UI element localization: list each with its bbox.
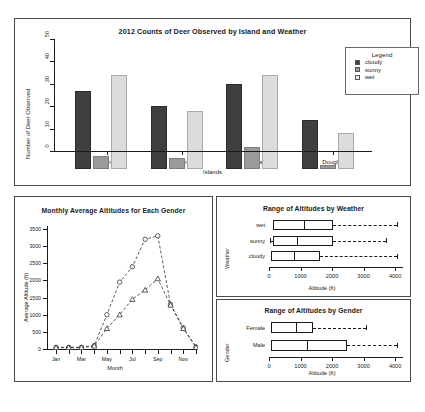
bar-y-tick-mark [50,61,54,62]
bar-y-tick-label: 20 [44,95,50,107]
bar-chichagof-sunny [244,147,260,169]
bar-plot-area [69,57,371,169]
boxplot-x-tick-mark [269,267,270,271]
boxplot-cap-high-cloudy [397,254,398,259]
boxplot-x-tick-mark [332,357,333,361]
legend-swatch-cloudy-icon [355,60,360,65]
legend-item-cloudy[interactable]: cloudy [355,59,418,65]
bar-y-tick-mark [50,129,54,130]
line-x-tick-mark [158,350,159,354]
line-x-tick-mark [132,350,133,354]
boxplot-median-male [307,340,308,351]
bar-baranof-cloudy [151,106,167,169]
line-point-male-aug [143,237,147,241]
boxplot-median-wet [304,220,305,230]
boxplot-whisker-high-sunny [333,241,386,242]
line-x-tick-label-jan: Jan [42,356,70,362]
line-y-tick-mark [43,246,47,247]
line-point-male-jul [130,265,134,269]
boxplot-x-tick-mark [301,357,302,361]
boxplot-median-female [296,322,297,333]
line-x-tick-mark [183,350,184,354]
boxplot-x-tick-label: 3000 [350,363,378,369]
legend-label-cloudy: cloudy [365,59,382,65]
line-y-tick-label: 0 [15,346,41,352]
boxplot-box-sunny [273,236,333,246]
line-point-female-jul [130,297,135,302]
line-y-tick-mark [43,298,47,299]
bar-y-tick-label: 0 [44,140,50,152]
boxplot-x-tick-label: 1000 [287,363,315,369]
boxplot-x-axis-line [269,267,403,268]
line-y-tick-mark [43,280,47,281]
boxplot-x-axis-line [269,357,403,358]
legend-item-sunny[interactable]: sunny [355,67,418,73]
weather-y-axis-title: Weather [224,248,230,269]
boxplot-x-tick-label: 2000 [318,273,346,279]
legend-swatch-sunny-icon [355,67,360,72]
boxplot-row-label-sunny: sunny [233,238,265,244]
bar-admiralty-wet [111,75,127,169]
line-y-tick-label: 1000 [15,312,41,318]
bar-baranof-wet [187,111,203,169]
line-chart-panel: Monthly Average Altitudes for Each Gende… [14,196,213,382]
bar-y-tick-label: 50 [44,28,50,40]
boxplot-whisker-high-female [313,328,367,329]
line-y-tick-mark [43,229,47,230]
bar-chart-panel: 2012 Counts of Deer Observed by Island a… [14,18,411,186]
legend-swatch-wet-icon [355,75,360,80]
boxplot-median-cloudy [294,251,295,261]
boxplot-cap-high-female [366,325,367,330]
boxplot-box-cloudy [271,251,320,261]
boxplot-x-tick-label: 4000 [381,273,409,279]
weather-chart-title: Range of Altitudes by Weather [217,205,410,212]
bar-baranof-sunny [169,158,185,169]
line-y-tick-label: 2500 [15,260,41,266]
bar-admiralty-sunny [93,156,109,169]
line-series-male [56,236,196,347]
line-x-tick-mark [171,350,172,354]
boxplot-box-wet [273,220,333,230]
bar-douglas-cloudy [302,120,318,169]
bar-admiralty-cloudy [75,91,91,169]
bar-chichagof-wet [262,75,278,169]
line-y-tick-label: 1500 [15,295,41,301]
line-x-tick-label-jul: Jul [118,356,146,362]
line-y-tick-mark [43,332,47,333]
legend-item-wet[interactable]: wet [355,74,418,80]
bar-douglas-sunny [320,165,336,169]
line-x-tick-label-mar: Mar [67,356,95,362]
line-x-tick-mark [107,350,108,354]
bar-y-axis-title: Number of Deer Observed [25,89,31,159]
bar-x-axis-title: Islands [15,169,410,175]
line-x-axis-title: Month [35,365,195,371]
bar-y-axis-line [54,39,55,151]
boxplot-row-label-male: Male [233,342,265,348]
line-x-tick-label-sep: Sep [144,356,172,362]
boxplot-x-tick-label: 0 [255,363,283,369]
boxplot-x-tick-mark [301,267,302,271]
gender-chart-title: Range of Altitudes by Gender [217,307,410,314]
line-y-tick-mark [43,349,47,350]
bar-y-tick-mark [50,106,54,107]
bar-y-tick-label: 40 [44,50,50,62]
boxplot-x-tick-label: 2000 [318,363,346,369]
boxplot-whisker-high-cloudy [320,256,397,257]
line-point-male-jun [117,280,121,284]
boxplot-x-tick-mark [395,267,396,271]
boxplot-whisker-high-male [347,345,397,346]
boxplot-cap-high-sunny [386,238,387,243]
boxplot-x-tick-mark [332,267,333,271]
legend-title: Legend [346,51,418,58]
legend-label-wet: wet [365,74,374,80]
bar-y-tick-mark [50,39,54,40]
figure-canvas: 2012 Counts of Deer Observed by Island a… [0,0,425,412]
bar-chart-title: 2012 Counts of Deer Observed by Island a… [15,27,410,36]
boxplot-x-tick-label: 4000 [381,363,409,369]
line-x-tick-label-nov: Nov [169,356,197,362]
bar-y-tick-label: 30 [44,73,50,85]
line-y-tick-label: 3000 [15,243,41,249]
line-series-female [56,279,196,348]
weather-plot-area [269,217,403,264]
line-y-tick-label: 500 [15,329,41,335]
